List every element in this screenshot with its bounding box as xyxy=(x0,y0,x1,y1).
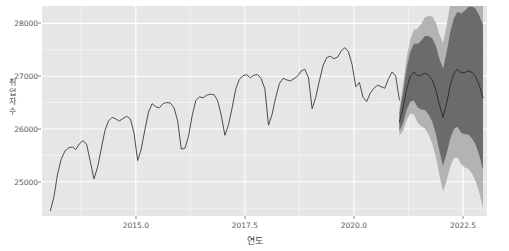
y-tick-label: 26000 xyxy=(0,124,38,133)
x-tick-mark xyxy=(353,216,354,219)
chart-container: 취 업 자 수 25000260002700028000 2015.02017.… xyxy=(0,0,509,251)
y-tick-mark xyxy=(38,128,41,129)
y-tick-label: 25000 xyxy=(0,177,38,186)
plot-panel xyxy=(42,6,487,216)
x-tick-label: 2022.5 xyxy=(450,221,476,230)
x-tick-mark xyxy=(244,216,245,219)
x-tick-label: 2015.0 xyxy=(123,221,149,230)
y-axis-ticks: 25000260002700028000 xyxy=(0,0,38,251)
y-tick-mark xyxy=(38,76,41,77)
x-tick-label: 2020.0 xyxy=(341,221,367,230)
y-tick-label: 27000 xyxy=(0,72,38,81)
y-tick-label: 28000 xyxy=(0,19,38,28)
y-tick-mark xyxy=(38,181,41,182)
y-tick-mark xyxy=(38,23,41,24)
x-tick-mark xyxy=(135,216,136,219)
x-tick-label: 2017.5 xyxy=(232,221,258,230)
x-axis-label: 연도 xyxy=(0,234,509,247)
x-tick-mark xyxy=(463,216,464,219)
plot-svg xyxy=(42,6,487,216)
